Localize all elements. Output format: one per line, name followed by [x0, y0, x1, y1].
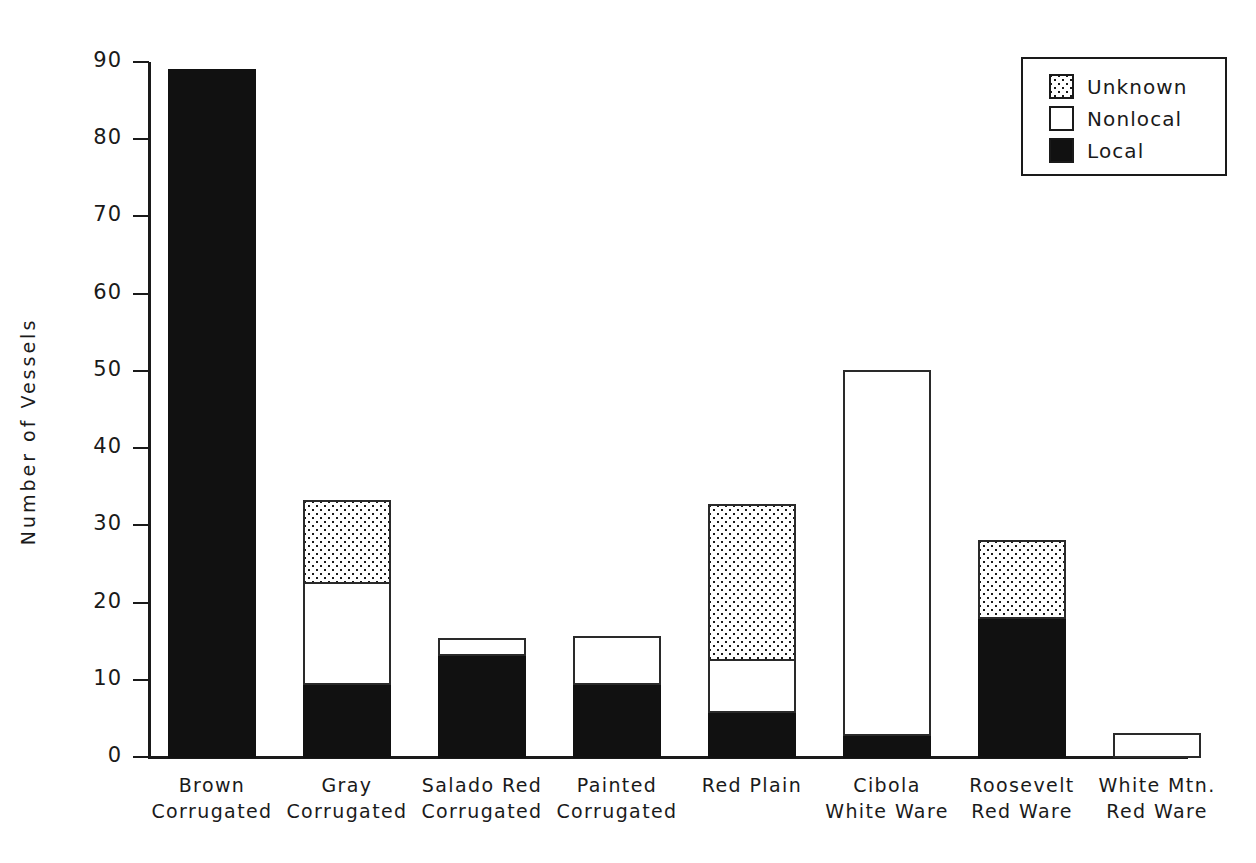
- bar-segment-local[interactable]: [303, 683, 391, 758]
- y-axis-tick: [133, 293, 149, 295]
- y-axis-tick: [133, 602, 149, 604]
- legend: Unknown Nonlocal Local: [1021, 57, 1227, 176]
- y-axis-tick: [133, 756, 149, 758]
- x-axis-label-line: Red Ware: [1090, 798, 1224, 824]
- stippled-swatch-icon: [1049, 74, 1074, 99]
- bar-segment-local[interactable]: [708, 711, 796, 758]
- x-axis-label-line: Red Plain: [685, 772, 819, 798]
- y-axis-tick-label: 0: [108, 743, 122, 767]
- bar-chart: Number of Vessels 0102030405060708090 Br…: [0, 0, 1256, 863]
- y-axis-tick: [133, 138, 149, 140]
- x-axis-label-line: White Mtn.: [1090, 772, 1224, 798]
- y-axis-title: Number of Vessels: [0, 0, 56, 863]
- x-axis-label-line: Corrugated: [280, 798, 414, 824]
- y-axis-tick-label: 10: [93, 666, 122, 690]
- x-axis-label: GrayCorrugated: [280, 772, 414, 824]
- x-axis-label: White Mtn.Red Ware: [1090, 772, 1224, 824]
- y-axis-tick-label: 40: [93, 434, 122, 458]
- y-axis-tick: [133, 447, 149, 449]
- bar-segment-unknown[interactable]: [978, 540, 1066, 619]
- x-axis-label: Salado RedCorrugated: [415, 772, 549, 824]
- x-axis-label-line: Red Ware: [955, 798, 1089, 824]
- y-axis-tick: [133, 215, 149, 217]
- bar-segment-unknown[interactable]: [303, 500, 391, 585]
- x-axis-label: PaintedCorrugated: [550, 772, 684, 824]
- legend-item[interactable]: Local: [1049, 135, 1225, 166]
- bar-segment-nonlocal[interactable]: [708, 659, 796, 714]
- x-axis-label-line: Corrugated: [550, 798, 684, 824]
- bar-segment-nonlocal[interactable]: [573, 636, 661, 684]
- black-swatch-icon: [1049, 138, 1074, 163]
- y-axis-tick-label: 70: [93, 202, 122, 226]
- y-axis-tick-label: 80: [93, 125, 122, 149]
- bar-segment-local[interactable]: [438, 654, 526, 758]
- y-axis-tick-label: 90: [93, 48, 122, 72]
- bar-group[interactable]: [303, 60, 391, 757]
- bar-segment-nonlocal[interactable]: [1113, 733, 1201, 758]
- x-axis-label-line: Brown: [145, 772, 279, 798]
- x-axis-label-line: Corrugated: [145, 798, 279, 824]
- x-axis-label-line: White Ware: [820, 798, 954, 824]
- bar-segment-local[interactable]: [978, 617, 1066, 758]
- y-axis-tick: [133, 370, 149, 372]
- y-axis-tick-label: 60: [93, 280, 122, 304]
- y-axis-tick: [133, 524, 149, 526]
- y-axis-tick: [133, 61, 149, 63]
- x-axis-label-line: Gray: [280, 772, 414, 798]
- legend-item-label: Nonlocal: [1087, 107, 1182, 131]
- x-axis-label-line: Roosevelt: [955, 772, 1089, 798]
- bar-segment-local[interactable]: [843, 734, 931, 758]
- bar-group[interactable]: [573, 60, 661, 757]
- y-axis-tick-label: 20: [93, 589, 122, 613]
- bar-segment-local[interactable]: [168, 69, 256, 758]
- legend-item-label: Unknown: [1087, 75, 1188, 99]
- bar-group[interactable]: [438, 60, 526, 757]
- white-swatch-icon: [1049, 106, 1074, 131]
- x-axis-label: CibolaWhite Ware: [820, 772, 954, 824]
- y-axis-tick: [133, 679, 149, 681]
- bar-segment-nonlocal[interactable]: [438, 638, 526, 656]
- x-axis-label-line: Cibola: [820, 772, 954, 798]
- bar-segment-nonlocal[interactable]: [303, 582, 391, 684]
- legend-item[interactable]: Unknown: [1049, 71, 1225, 102]
- x-axis-label: RooseveltRed Ware: [955, 772, 1089, 824]
- bar-group[interactable]: [843, 60, 931, 757]
- bar-segment-unknown[interactable]: [708, 504, 796, 660]
- x-axis-label: Red Plain: [685, 772, 819, 798]
- legend-item[interactable]: Nonlocal: [1049, 103, 1225, 134]
- bar-segment-nonlocal[interactable]: [843, 370, 931, 736]
- bar-group[interactable]: [708, 60, 796, 757]
- y-axis-tick-label: 50: [93, 357, 122, 381]
- x-axis-label: BrownCorrugated: [145, 772, 279, 824]
- bar-group[interactable]: [168, 60, 256, 757]
- legend-item-label: Local: [1087, 139, 1144, 163]
- y-axis-tick-label: 30: [93, 511, 122, 535]
- x-axis-label-line: Painted: [550, 772, 684, 798]
- x-axis-label-line: Corrugated: [415, 798, 549, 824]
- x-axis-label-line: Salado Red: [415, 772, 549, 798]
- bar-segment-local[interactable]: [573, 683, 661, 758]
